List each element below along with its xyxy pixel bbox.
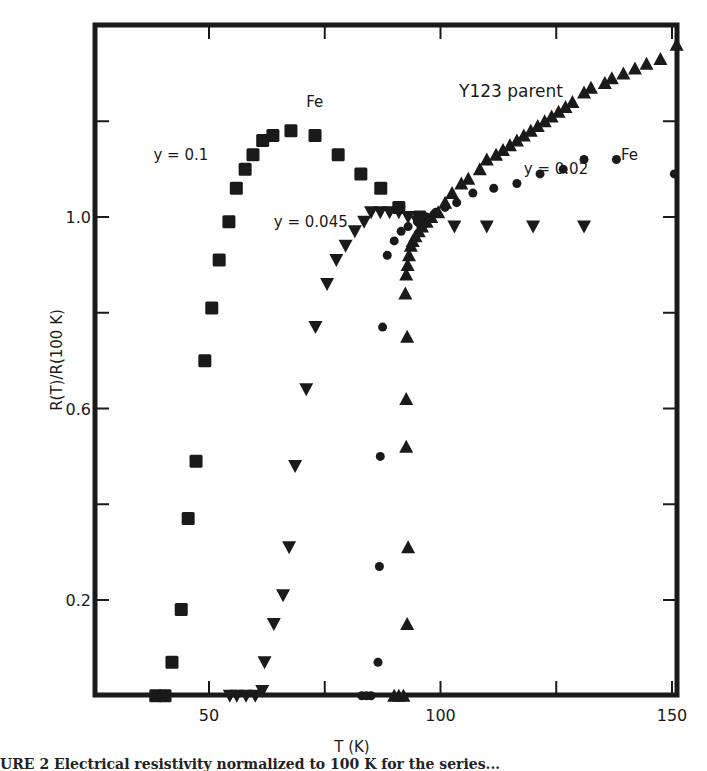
triangle-down-marker: [267, 618, 281, 631]
x-axis-label: T (K): [333, 738, 369, 756]
triangle-up-marker: [565, 95, 579, 108]
circle-marker: [373, 658, 382, 667]
circle-marker: [378, 323, 387, 332]
circle-marker: [489, 184, 498, 193]
square-marker: [239, 163, 252, 176]
y-tick-label: 1.0: [66, 208, 91, 227]
square-marker: [165, 656, 178, 669]
resistivity-chart: 501001500.20.61.0 Fey = 0.1y = 0.045Y123…: [0, 0, 707, 760]
square-marker: [182, 512, 195, 525]
x-tick-label: 150: [657, 706, 688, 725]
square-marker: [230, 182, 243, 195]
triangle-up-marker: [653, 52, 667, 65]
annotation-label: y = 0.1: [153, 146, 208, 164]
square-marker: [198, 354, 211, 367]
triangle-down-marker: [282, 541, 296, 554]
triangle-down-marker: [329, 254, 343, 267]
triangle-up-marker: [605, 71, 619, 84]
triangle-down-marker: [299, 383, 313, 396]
circle-marker: [512, 179, 521, 188]
triangle-up-marker: [399, 440, 413, 453]
circle-marker: [383, 251, 392, 260]
x-tick-label: 50: [199, 706, 219, 725]
triangle-down-marker: [577, 221, 591, 234]
circle-marker: [375, 562, 384, 571]
square-marker: [222, 215, 235, 228]
triangle-up-marker: [400, 330, 414, 343]
triangle-down-marker: [480, 221, 494, 234]
data-series: [149, 38, 683, 703]
triangle-down-marker: [288, 460, 302, 473]
triangle-down-marker: [320, 278, 334, 291]
y-axis-label: R(T)/R(100 K): [48, 309, 66, 411]
annotation-label: Fe: [621, 146, 638, 164]
circle-marker: [452, 198, 461, 207]
square-marker: [159, 689, 172, 702]
circle-marker: [404, 222, 413, 231]
square-marker: [190, 455, 203, 468]
triangle-up-marker: [640, 57, 654, 70]
square-marker: [354, 167, 367, 180]
triangle-up-marker: [401, 540, 415, 553]
circle-marker: [390, 236, 399, 245]
square-marker: [284, 124, 297, 137]
plot-frame: [95, 25, 677, 695]
annotation-label: y = 0.045: [274, 213, 348, 231]
triangle-down-marker: [348, 225, 362, 238]
circle-marker: [367, 691, 376, 700]
triangle-up-marker: [616, 66, 630, 79]
triangle-down-marker: [339, 240, 353, 253]
triangle-up-marker: [584, 81, 598, 94]
series-y-0-02-fe: [357, 155, 679, 700]
triangle-down-marker: [447, 221, 461, 234]
square-marker: [332, 148, 345, 161]
triangle-up-marker: [400, 617, 414, 630]
triangle-up-marker: [399, 392, 413, 405]
square-marker: [309, 129, 322, 142]
triangle-down-marker: [258, 656, 272, 669]
axis-tick-labels: 501001500.20.61.0: [66, 208, 688, 725]
circle-marker: [376, 452, 385, 461]
triangle-up-marker: [461, 172, 475, 185]
y-tick-label: 0.6: [66, 400, 91, 419]
circle-marker: [468, 189, 477, 198]
square-marker: [205, 301, 218, 314]
square-marker: [246, 148, 259, 161]
square-marker: [266, 129, 279, 142]
triangle-up-marker: [398, 287, 412, 300]
triangle-up-marker: [670, 38, 684, 51]
triangle-down-marker: [308, 321, 322, 334]
square-marker: [175, 603, 188, 616]
triangle-up-marker: [628, 62, 642, 75]
annotation-label: y = 0.02: [524, 160, 588, 178]
square-marker: [213, 254, 226, 267]
axis-ticks: [95, 25, 677, 695]
x-tick-label: 100: [425, 706, 456, 725]
annotation-label: Y123 parent: [458, 81, 563, 101]
figure-caption: URE 2 Electrical resistivity normalized …: [0, 756, 707, 771]
triangle-down-marker: [276, 589, 290, 602]
triangle-down-marker: [526, 221, 540, 234]
circle-marker: [670, 169, 679, 178]
series-y123-parent: [387, 38, 683, 702]
circle-marker: [612, 155, 621, 164]
y-tick-label: 0.2: [66, 591, 91, 610]
annotation-label: Fe: [306, 93, 323, 111]
square-marker: [374, 182, 387, 195]
plot-border: [95, 25, 677, 695]
